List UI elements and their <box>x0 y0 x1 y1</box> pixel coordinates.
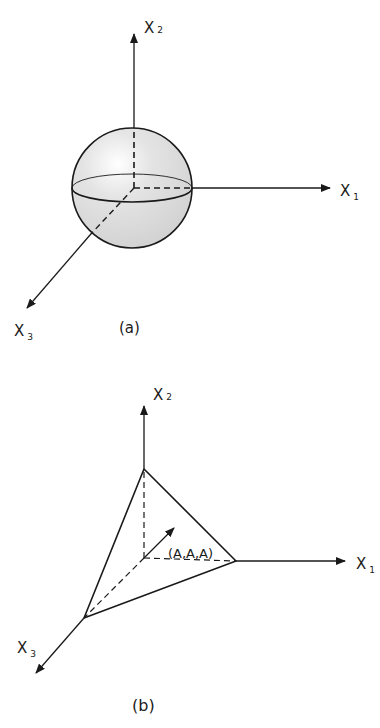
x3-label: X3 <box>14 322 33 342</box>
caption-b: (b) <box>132 696 155 715</box>
x1-label: X1 <box>340 182 359 202</box>
x2-label: X2 <box>144 19 163 37</box>
figure-b: (A,A,A) X2 X1 X3 (b) <box>17 386 375 715</box>
x3-axis <box>36 618 84 673</box>
vector-label: (A,A,A) <box>168 546 213 561</box>
hidden-edge-x3 <box>84 558 144 618</box>
x1-label: X1 <box>356 555 375 575</box>
x3-axis <box>27 235 90 308</box>
x3-label: X3 <box>17 639 36 659</box>
caption-a: (a) <box>119 319 140 337</box>
x2-label: X2 <box>153 386 172 404</box>
diagram-canvas: X2 X1 X3 (a) (A,A,A) X2 X1 X3 (b) <box>0 0 380 728</box>
figure-a: X2 X1 X3 (a) <box>14 19 359 342</box>
